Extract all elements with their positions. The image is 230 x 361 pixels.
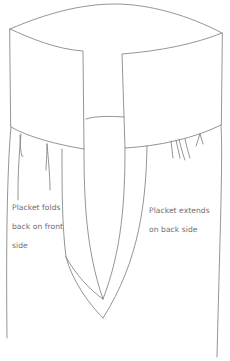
label-placket-back: Placket extends on back side xyxy=(149,196,219,244)
placket-diagram xyxy=(0,0,230,361)
label-front-line1: Placket folds xyxy=(12,203,72,213)
cuff-top-edge xyxy=(10,4,222,33)
gather-right-1 xyxy=(171,141,173,158)
gather-left-4 xyxy=(47,144,50,190)
placket-right-inner xyxy=(103,148,125,299)
placket-left-inner xyxy=(84,149,103,299)
label-placket-front: Placket folds back on front side xyxy=(12,193,72,260)
label-back-line1: Placket extends xyxy=(149,206,219,216)
right-cuff-flap xyxy=(122,33,222,148)
gather-right-5 xyxy=(196,134,203,146)
label-back-line2: on back side xyxy=(149,225,219,235)
gather-left-3 xyxy=(46,144,47,170)
label-front-line2: back on front xyxy=(12,222,72,232)
gather-right-2 xyxy=(176,140,180,158)
label-front-line3: side xyxy=(12,241,72,251)
center-band xyxy=(86,116,124,119)
left-cuff-flap xyxy=(10,29,84,149)
sleeve-left-edge xyxy=(7,127,11,338)
gather-right-4 xyxy=(185,139,190,158)
placket-inner-v-left xyxy=(66,257,103,299)
